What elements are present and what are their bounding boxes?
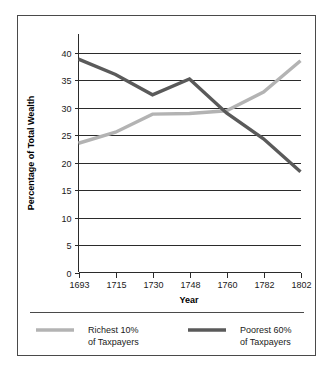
series-line-poorest-60 [79, 59, 301, 172]
x-tick-labels: 1693171517301748176017821802 [69, 280, 311, 290]
x-tick-label: 1782 [254, 280, 274, 290]
x-tick-label: 1802 [291, 280, 311, 290]
x-tick-label: 1715 [106, 280, 126, 290]
y-tick-label: 10 [61, 214, 71, 224]
y-tick-label: 40 [61, 49, 71, 59]
gridlines [79, 54, 301, 246]
legend-label-line2: of Taxpayers [240, 337, 291, 347]
y-tick-label: 25 [61, 131, 71, 141]
x-tick-label: 1730 [143, 280, 163, 290]
x-tick-label: 1693 [69, 280, 89, 290]
legend-label-line2: of Taxpayers [88, 337, 139, 347]
y-tick-label: 15 [61, 186, 71, 196]
y-tick-label: 20 [61, 159, 71, 169]
chart-plot-area: 0510152025303540 16931715173017481760178… [0, 0, 334, 372]
y-axis-title: Percentage of Total Wealth [26, 96, 36, 211]
line-chart: 0510152025303540 16931715173017481760178… [0, 0, 334, 372]
y-tick-label: 5 [66, 241, 71, 251]
x-tick-marks [80, 273, 302, 278]
chart-figure: 0510152025303540 16931715173017481760178… [0, 0, 334, 372]
y-tick-labels: 0510152025303540 [61, 49, 71, 279]
x-tick-label: 1760 [217, 280, 237, 290]
legend-label-line1: Richest 10% [88, 325, 139, 335]
legend-label-line1: Poorest 60% [240, 325, 292, 335]
data-series-group [79, 59, 301, 172]
x-tick-label: 1748 [180, 280, 200, 290]
y-tick-label: 35 [61, 76, 71, 86]
legend: Richest 10%of TaxpayersPoorest 60%of Tax… [36, 325, 292, 347]
y-tick-label: 0 [66, 269, 71, 279]
y-tick-label: 30 [61, 104, 71, 114]
x-axis-title: Year [179, 295, 199, 305]
